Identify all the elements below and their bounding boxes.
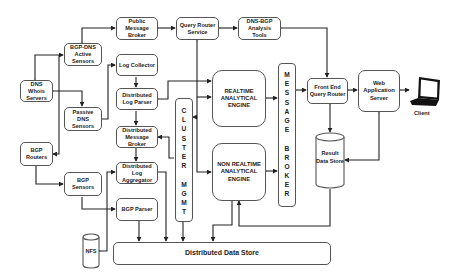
query-router-service-label: Query Router Service [178, 22, 217, 36]
message-broker-letter: E [285, 79, 289, 88]
distributed-message-broker-label: Distributed Message Broker [118, 127, 156, 148]
bgp-parser-node: BGP Parser [116, 198, 158, 221]
web-application-server-node: Web Application Server [358, 70, 400, 112]
result-data-store-node: Result Data Store [316, 150, 344, 165]
message-broker-letter: R [285, 189, 290, 198]
cluster-letter: M [181, 198, 187, 207]
message-broker-letter: S [285, 98, 289, 107]
cluster-letter: L [182, 115, 186, 124]
connector-lines [0, 0, 457, 280]
bgp-parser-label: BGP Parser [122, 206, 153, 213]
front-end-query-router-node: Front End Query Router [307, 78, 348, 104]
distributed-log-aggregator-label: Distributed Log Aggregator [118, 163, 156, 184]
cluster-letter: R [182, 161, 187, 170]
dns-whois-servers-node: DNS Whois Servers [20, 80, 53, 102]
nfs-label: NFS [85, 248, 96, 254]
message-broker-letter: A [285, 107, 290, 116]
cluster-mgmt-column: C L U S T E R M G M T [175, 98, 193, 222]
nfs-node: NFS [83, 248, 99, 256]
distributed-message-broker-node: Distributed Message Broker [116, 126, 158, 148]
message-broker-letter: S [285, 88, 289, 97]
bgp-dns-active-sensors-node: BGP-DNS Active Sensors [64, 43, 102, 66]
dns-bgp-analysis-tools-node: DNS-BGP Analysis Tools [238, 17, 281, 40]
message-broker-letter: B [285, 144, 290, 153]
cluster-letter: G [181, 189, 186, 198]
public-message-broker-label: Public Message Broker [118, 18, 156, 39]
cluster-letter: C [182, 106, 187, 115]
bgp-routers-node: BGP Routers [20, 142, 53, 166]
passive-dns-sensors-node: Passive DNS Sensors [64, 107, 102, 131]
client-label: Client [414, 110, 430, 116]
realtime-analytical-engine-label: REALTIME ANALYTICAL ENGINE [214, 88, 264, 110]
bgp-sensors-node: BGP Sensors [64, 172, 102, 196]
bgp-routers-label: BGP Routers [22, 147, 51, 161]
log-collector-node: Log Collector [116, 54, 158, 76]
web-application-server-label: Web Application Server [360, 80, 398, 102]
non-realtime-analytical-engine-node: NON REALTIME ANALYTICAL ENGINE [212, 143, 266, 201]
message-broker-letter: R [285, 153, 290, 162]
cluster-letter: U [182, 124, 187, 133]
message-broker-letter: M [284, 70, 290, 79]
message-broker-letter: E [285, 180, 289, 189]
message-broker-column: M E S S A G E B R O K E R [278, 63, 296, 207]
cluster-letter: M [181, 180, 187, 189]
cluster-letter: S [182, 134, 186, 143]
result-data-store-label: Result Data Store [316, 150, 344, 164]
distributed-log-parser-label: Distributed Log Parser [118, 92, 156, 106]
public-message-broker-node: Public Message Broker [116, 17, 158, 40]
dns-whois-servers-label: DNS Whois Servers [22, 81, 51, 102]
cluster-letter: T [182, 143, 186, 152]
cluster-letter: E [182, 152, 186, 161]
bgp-sensors-label: BGP Sensors [66, 177, 100, 191]
laptop-icon [410, 77, 440, 106]
message-broker-letter: G [284, 116, 289, 125]
system-architecture-diagram: Public Message Broker Query Router Servi… [0, 0, 457, 280]
message-broker-letter: K [285, 171, 290, 180]
non-realtime-analytical-engine-label: NON REALTIME ANALYTICAL ENGINE [214, 161, 264, 183]
distributed-data-store-node: Distributed Data Store [113, 242, 331, 265]
passive-dns-sensors-label: Passive DNS Sensors [66, 109, 100, 130]
distributed-log-parser-node: Distributed Log Parser [116, 88, 158, 110]
dns-bgp-analysis-tools-label: DNS-BGP Analysis Tools [240, 18, 279, 39]
distributed-data-store-label: Distributed Data Store [185, 249, 259, 258]
message-broker-letter: O [284, 162, 289, 171]
bgp-dns-active-sensors-label: BGP-DNS Active Sensors [66, 44, 100, 65]
log-collector-label: Log Collector [119, 62, 155, 69]
distributed-log-aggregator-node: Distributed Log Aggregator [116, 162, 158, 184]
cluster-letter: T [182, 207, 186, 216]
front-end-query-router-label: Front End Query Router [309, 84, 346, 98]
message-broker-letter: E [285, 125, 289, 134]
query-router-service-node: Query Router Service [176, 17, 219, 40]
realtime-analytical-engine-node: REALTIME ANALYTICAL ENGINE [212, 70, 266, 127]
